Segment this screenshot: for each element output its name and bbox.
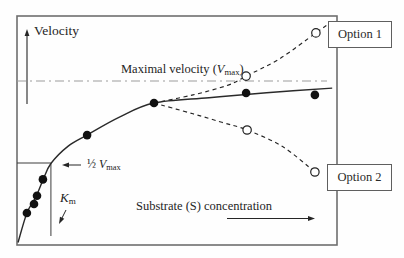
x-axis-label: Substrate (S) concentration [136, 200, 272, 214]
vmax-label-sub: max [224, 67, 239, 77]
half-vmax-label: ½ Vmax [87, 158, 121, 172]
y-axis-label: Velocity [34, 24, 79, 39]
vmax-label: Maximal velocity (Vmax) [121, 63, 244, 78]
option-1-box: Option 1 [328, 21, 392, 48]
half-vmax-prefix: ½ [87, 157, 99, 171]
vmax-label-suffix: ) [240, 62, 244, 76]
x-axis-label-text: Substrate (S) concentration [136, 199, 272, 213]
option2-open-point [243, 126, 251, 134]
option1-open-point [312, 29, 320, 37]
option2-dashed-curve [154, 103, 315, 172]
data-point-filled [311, 91, 320, 100]
option-2-label: Option 2 [337, 170, 381, 185]
km-arrow-head [59, 217, 64, 224]
option-2-box: Option 2 [327, 164, 392, 191]
half-vmax-arrow-head [62, 163, 69, 168]
half-vmax-sub: max [106, 163, 120, 172]
data-point-filled [33, 192, 42, 201]
km-label-var: K [60, 190, 69, 205]
data-point-filled [23, 209, 32, 218]
data-point-filled [150, 99, 159, 108]
data-point-filled [83, 131, 92, 140]
data-point-filled [39, 175, 48, 184]
enzyme-kinetics-figure: Velocity Maximal velocity (Vmax) ½ Vmax … [0, 0, 404, 258]
vmax-label-prefix: Maximal velocity ( [121, 62, 217, 76]
y-axis-label-text: Velocity [34, 23, 79, 38]
option-1-label: Option 1 [338, 27, 382, 42]
km-label-sub: m [69, 196, 76, 206]
y-axis-arrow-head [25, 29, 30, 36]
km-label: Km [60, 191, 76, 206]
x-axis-arrow-head [308, 216, 315, 221]
data-point-filled [242, 89, 251, 98]
data-point-filled [30, 200, 39, 209]
option2-open-point [311, 168, 319, 176]
